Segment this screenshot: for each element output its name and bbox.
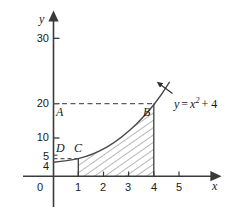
equation-exponent: 2 (195, 96, 199, 105)
curve-equation-label: y=x2+ 4 (174, 97, 217, 110)
y-tick-label-4: 4 (25, 161, 49, 172)
equation-equals: = (181, 97, 188, 111)
equation-lhs: y (174, 97, 179, 111)
x-tick-label-5: 5 (171, 182, 187, 193)
y-tick-label-20: 20 (25, 98, 49, 109)
x-tick-label-0: 0 (32, 182, 48, 193)
point-label-A: A (56, 106, 63, 118)
x-tick-label-3: 3 (120, 182, 136, 193)
y-tick-label-10: 10 (25, 132, 49, 143)
equation-plus-term: + 4 (201, 97, 217, 111)
x-tick-label-1: 1 (70, 182, 86, 193)
point-label-D: D (56, 142, 65, 154)
y-axis-label: y (39, 13, 44, 25)
graph-figure: y x 30 20 10 5 4 0 1 2 3 4 5 A B C D y=x… (0, 0, 229, 222)
point-label-C: C (74, 142, 82, 154)
x-tick-label-4: 4 (146, 182, 162, 193)
y-tick-label-30: 30 (25, 33, 49, 44)
point-label-B: B (143, 106, 150, 118)
x-tick-label-2: 2 (95, 182, 111, 193)
x-axis-label: x (212, 180, 217, 192)
